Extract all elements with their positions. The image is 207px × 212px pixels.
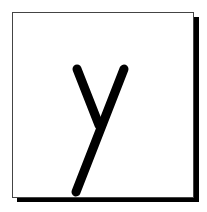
letter-y-glyph: [0, 0, 207, 212]
